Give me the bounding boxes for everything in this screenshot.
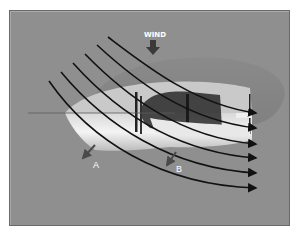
- wind-label: WIND: [144, 31, 166, 39]
- force-label-b: B: [176, 164, 182, 174]
- force-arrow-a: [83, 145, 95, 158]
- boat: [28, 81, 252, 150]
- boat-wind-diagram: WIND A B: [0, 0, 300, 236]
- force-label-a: A: [93, 160, 99, 170]
- wind-arrow-icon: [146, 40, 160, 55]
